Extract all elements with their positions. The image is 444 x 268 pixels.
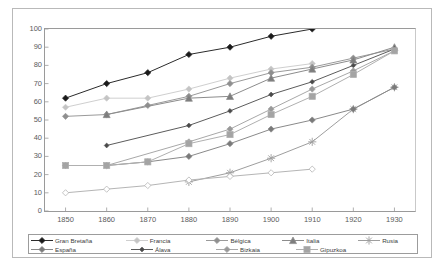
y-tick-label: 50 bbox=[16, 116, 42, 124]
legend-label: Bizkaia bbox=[240, 245, 260, 254]
x-tick-label: 1900 bbox=[251, 215, 291, 224]
legend-item-espa-a: España bbox=[31, 245, 131, 254]
y-tick-label: 40 bbox=[16, 134, 42, 142]
legend-swatch-icon bbox=[31, 245, 53, 254]
legend-swatch-icon bbox=[131, 245, 153, 254]
legend-label: Bélgica bbox=[230, 236, 250, 245]
plot-series-svg bbox=[45, 29, 415, 211]
legend-label: Francia bbox=[150, 236, 171, 245]
legend-item-francia: Francia bbox=[126, 236, 207, 245]
legend-item-rusia: Rusia bbox=[358, 236, 415, 245]
legend-swatch-icon bbox=[31, 236, 53, 245]
legend-label: Italia bbox=[306, 236, 319, 245]
x-tick-label: 1890 bbox=[210, 215, 250, 224]
y-tick-label: 20 bbox=[16, 171, 42, 179]
legend-swatch-icon bbox=[216, 245, 238, 254]
legend-row-top: Gran BretañaFranciaBélgicaItaliaRusia bbox=[31, 236, 415, 245]
y-tick-label: 70 bbox=[16, 80, 42, 88]
legend-label: Gipuzkoa bbox=[320, 245, 346, 254]
legend-label: Rusia bbox=[382, 236, 398, 245]
x-axis: 185018601870188018901900191019201930 bbox=[44, 215, 416, 229]
chart-legend: Gran BretañaFranciaBélgicaItaliaRusia Es… bbox=[28, 234, 418, 254]
x-tick-label: 1910 bbox=[292, 215, 332, 224]
legend-item-bizkaia: Bizkaia bbox=[216, 245, 296, 254]
y-tick-label: 90 bbox=[16, 43, 42, 51]
x-tick-label: 1870 bbox=[128, 215, 168, 224]
y-tick-label: 100 bbox=[16, 25, 42, 33]
legend-item-gipuzkoa: Gipuzkoa bbox=[296, 245, 376, 254]
y-axis: 0102030405060708090100 bbox=[14, 28, 42, 212]
x-tick-label: 1860 bbox=[87, 215, 127, 224]
y-tick-label: 10 bbox=[16, 189, 42, 197]
y-tick-label: 80 bbox=[16, 61, 42, 69]
legend-label: Gran Bretaña bbox=[55, 236, 92, 245]
legend-swatch-icon bbox=[358, 236, 380, 245]
legend-row-bottom: EspañaÁlavaBizkaiaGipuzkoa bbox=[31, 245, 415, 254]
y-tick-label: 0 bbox=[16, 207, 42, 215]
legend-swatch-icon bbox=[282, 236, 304, 245]
x-tick-label: 1850 bbox=[46, 215, 86, 224]
chart-figure: 0102030405060708090100 18501860187018801… bbox=[0, 0, 444, 268]
x-tick-label: 1920 bbox=[333, 215, 373, 224]
legend-item-italia: Italia bbox=[282, 236, 358, 245]
series-9 bbox=[62, 166, 315, 196]
legend-swatch-icon bbox=[296, 245, 318, 254]
legend-item--lava: Álava bbox=[131, 245, 216, 254]
y-tick-label: 30 bbox=[16, 152, 42, 160]
x-tick-label: 1880 bbox=[169, 215, 209, 224]
legend-swatch-icon bbox=[126, 236, 148, 245]
y-tick-label: 60 bbox=[16, 98, 42, 106]
legend-swatch-icon bbox=[206, 236, 228, 245]
x-tick-label: 1930 bbox=[374, 215, 414, 224]
legend-label: España bbox=[55, 245, 76, 254]
legend-item-b-lgica: Bélgica bbox=[206, 236, 282, 245]
legend-label: Álava bbox=[155, 245, 170, 254]
legend-item-gran-breta-a: Gran Bretaña bbox=[31, 236, 126, 245]
plot-area bbox=[44, 28, 416, 212]
